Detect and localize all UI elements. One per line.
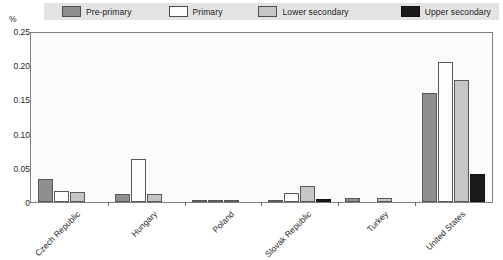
y-axis-tick-label: 0 xyxy=(0,198,30,208)
legend-label: Primary xyxy=(193,7,223,17)
x-axis-category-label: Hungary xyxy=(129,209,159,239)
bar-group xyxy=(31,33,108,202)
bar[interactable] xyxy=(422,93,437,202)
bar[interactable] xyxy=(54,191,69,202)
x-axis-labels: Czech RepublicHungaryPolandSlovak Republ… xyxy=(30,205,493,260)
bar[interactable] xyxy=(316,199,331,202)
legend-swatch-icon xyxy=(62,6,81,17)
bar-group xyxy=(185,33,262,202)
legend-label: Lower secondary xyxy=(282,7,348,17)
bar[interactable] xyxy=(192,200,207,202)
x-axis-category-label: United States xyxy=(424,209,467,252)
bar[interactable] xyxy=(115,194,130,202)
x-axis-category-label: Poland xyxy=(210,209,236,235)
bar-group xyxy=(415,33,492,202)
legend-item-primary[interactable]: Primary xyxy=(169,6,223,17)
legend-item-pre-primary[interactable]: Pre-primary xyxy=(62,6,132,17)
x-axis-category-label: Turkey xyxy=(365,209,390,234)
chart-container: Pre-primary Primary Lower secondary Uppe… xyxy=(0,0,503,260)
x-axis-category-label: Slovak Republic xyxy=(263,209,313,259)
legend-label: Pre-primary xyxy=(86,7,132,17)
legend-swatch-icon xyxy=(258,6,277,17)
plot-area xyxy=(30,32,493,203)
legend-swatch-icon xyxy=(169,6,188,17)
y-axis-tick-label: 0.10 xyxy=(0,130,30,140)
y-axis-tick-label: 0.20 xyxy=(0,61,30,71)
y-axis-tick-label: 0.05 xyxy=(0,164,30,174)
legend-item-lower-secondary[interactable]: Lower secondary xyxy=(258,6,348,17)
legend-swatch-icon xyxy=(401,6,420,17)
y-axis-tick-label: 0.25 xyxy=(0,27,30,37)
chart-legend: Pre-primary Primary Lower secondary Uppe… xyxy=(44,3,499,20)
bar-group xyxy=(108,33,185,202)
bar[interactable] xyxy=(38,179,53,202)
y-axis-unit-label: % xyxy=(9,14,17,24)
bar[interactable] xyxy=(454,80,469,202)
y-axis-tick-label: 0.15 xyxy=(0,95,30,105)
bar-group xyxy=(338,33,415,202)
bar[interactable] xyxy=(131,159,146,202)
legend-item-upper-secondary[interactable]: Upper secondary xyxy=(401,6,491,17)
x-axis-category-label: Czech Republic xyxy=(32,209,81,258)
bar[interactable] xyxy=(268,200,283,202)
bar[interactable] xyxy=(147,194,162,202)
bar[interactable] xyxy=(224,200,239,202)
bar-groups xyxy=(31,33,492,202)
bar[interactable] xyxy=(208,200,223,202)
bar-group xyxy=(261,33,338,202)
bar[interactable] xyxy=(438,62,453,202)
bar[interactable] xyxy=(377,198,392,202)
bar[interactable] xyxy=(345,198,360,202)
legend-label: Upper secondary xyxy=(425,7,491,17)
bar[interactable] xyxy=(470,174,485,202)
bar[interactable] xyxy=(284,193,299,202)
bar[interactable] xyxy=(300,186,315,202)
bar[interactable] xyxy=(70,192,85,202)
